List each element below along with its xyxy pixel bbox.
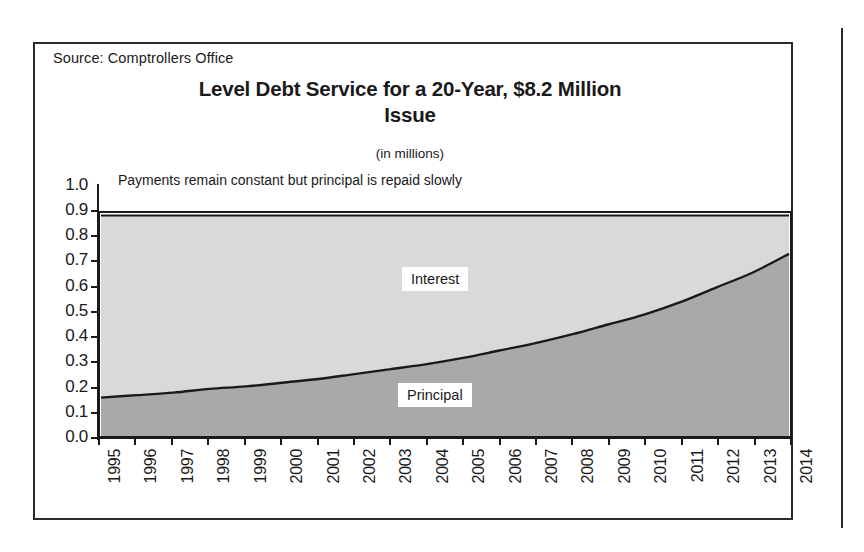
x-tick-mark bbox=[98, 438, 100, 445]
x-tick-label: 2005 bbox=[470, 449, 488, 483]
x-tick-label: 2001 bbox=[325, 449, 343, 483]
y-tick-mark bbox=[91, 361, 98, 363]
x-tick-mark bbox=[317, 438, 319, 445]
chart-title-line-2: Issue bbox=[384, 103, 435, 126]
y-tick-label: 0.2 bbox=[46, 377, 88, 397]
x-tick-label: 2012 bbox=[725, 449, 743, 483]
x-tick-mark bbox=[280, 438, 282, 445]
x-tick-label: 1996 bbox=[142, 449, 160, 483]
x-tick-mark bbox=[134, 438, 136, 445]
series-label-principal: Principal bbox=[398, 383, 472, 407]
y-tick-label: 0.4 bbox=[46, 326, 88, 346]
series-label-interest: Interest bbox=[402, 267, 468, 291]
x-tick-mark bbox=[499, 438, 501, 445]
y-tick-label: 0.1 bbox=[46, 402, 88, 422]
x-tick-label: 2010 bbox=[652, 449, 670, 483]
y-tick-label: 1.0 bbox=[46, 175, 88, 195]
x-tick-mark bbox=[353, 438, 355, 445]
x-tick-mark bbox=[535, 438, 537, 445]
x-tick-mark bbox=[244, 438, 246, 445]
y-tick-label: 0.6 bbox=[46, 276, 88, 296]
y-tick-mark bbox=[91, 336, 98, 338]
x-tick-label: 2009 bbox=[616, 449, 634, 483]
chart-title-line-1: Level Debt Service for a 20-Year, $8.2 M… bbox=[199, 77, 622, 100]
y-tick-mark bbox=[91, 311, 98, 313]
x-tick-label: 1997 bbox=[179, 449, 197, 483]
y-tick-mark bbox=[91, 387, 98, 389]
x-tick-label: 2014 bbox=[798, 449, 816, 483]
x-tick-label: 2003 bbox=[397, 449, 415, 483]
x-tick-mark bbox=[608, 438, 610, 445]
x-tick-mark bbox=[681, 438, 683, 445]
y-tick-mark bbox=[91, 437, 98, 439]
x-tick-mark bbox=[790, 438, 792, 445]
y-tick-label: 0.8 bbox=[46, 225, 88, 245]
x-tick-label: 2008 bbox=[579, 449, 597, 483]
x-tick-label: 2004 bbox=[434, 449, 452, 483]
y-tick-label: 0.7 bbox=[46, 250, 88, 270]
x-tick-mark bbox=[389, 438, 391, 445]
x-tick-label: 1998 bbox=[215, 449, 233, 483]
y-tick-mark bbox=[91, 210, 98, 212]
x-tick-mark bbox=[644, 438, 646, 445]
y-tick-label: 0.0 bbox=[46, 427, 88, 447]
y-tick-label: 0.5 bbox=[46, 301, 88, 321]
x-tick-label: 2002 bbox=[361, 449, 379, 483]
plot-annotation: Payments remain constant but principal i… bbox=[118, 172, 462, 188]
x-tick-mark bbox=[207, 438, 209, 445]
y-tick-mark bbox=[91, 260, 98, 262]
y-tick-mark bbox=[91, 235, 98, 237]
y-tick-label: 0.9 bbox=[46, 200, 88, 220]
y-tick-label: 0.3 bbox=[46, 351, 88, 371]
chart-title: Level Debt Service for a 20-Year, $8.2 M… bbox=[120, 76, 700, 128]
x-tick-mark bbox=[571, 438, 573, 445]
x-tick-mark bbox=[171, 438, 173, 445]
x-tick-label: 1995 bbox=[106, 449, 124, 483]
x-tick-mark bbox=[426, 438, 428, 445]
x-tick-label: 2013 bbox=[762, 449, 780, 483]
x-tick-label: 2000 bbox=[288, 449, 306, 483]
x-tick-label: 2011 bbox=[689, 449, 707, 482]
x-tick-mark bbox=[717, 438, 719, 445]
x-tick-label: 1999 bbox=[252, 449, 270, 483]
chart-subtitle: (in millions) bbox=[120, 146, 700, 161]
y-tick-mark bbox=[91, 412, 98, 414]
y-tick-mark bbox=[91, 286, 98, 288]
x-tick-mark bbox=[462, 438, 464, 445]
x-tick-label: 2006 bbox=[507, 449, 525, 483]
page-edge-rule bbox=[841, 28, 843, 528]
y-axis-tick-labels: 1.00.90.80.70.60.50.40.30.20.10.0 bbox=[38, 0, 88, 552]
x-tick-mark bbox=[754, 438, 756, 445]
x-tick-label: 2007 bbox=[543, 449, 561, 483]
